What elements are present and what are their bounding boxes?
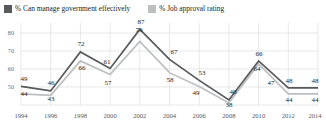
- point-label-manage-2000: 61: [100, 58, 114, 66]
- x-tick-2002: 2002: [128, 111, 152, 120]
- point-label-manage-2004: 67: [167, 48, 181, 56]
- legend-swatch-icon: [4, 5, 12, 13]
- point-label-manage-1998: 72: [74, 40, 88, 48]
- x-tick-2012: 2012: [276, 111, 300, 120]
- point-label-approval-2002: 79: [132, 26, 146, 34]
- x-tick-1994: 1994: [9, 111, 33, 120]
- point-label-manage-2014: 48: [308, 77, 322, 85]
- plot-svg: [0, 17, 321, 107]
- legend-label-manage-government: % Can manage government effectively: [15, 4, 130, 13]
- point-label-manage-1996: 46: [44, 79, 58, 87]
- point-label-approval-2012: 44: [282, 96, 296, 104]
- point-label-approval-1994: 44: [17, 90, 31, 98]
- point-label-manage-1994: 49: [17, 75, 31, 83]
- point-label-manage-2012: 48: [282, 77, 296, 85]
- x-tick-2000: 2000: [98, 111, 122, 120]
- point-label-approval-1998: 66: [75, 64, 89, 72]
- point-label-approval-1996: 43: [44, 95, 58, 103]
- y-tick-50: 50: [2, 83, 14, 90]
- x-tick-1996: 1996: [39, 111, 63, 120]
- point-label-approval-2010-dip: 47: [264, 79, 278, 87]
- x-tick-2006: 2006: [187, 111, 211, 120]
- x-tick-1998: 1998: [68, 111, 92, 120]
- x-tick-2004: 2004: [158, 111, 182, 120]
- y-tick-70: 70: [2, 47, 14, 54]
- y-tick-60: 60: [2, 65, 14, 72]
- gridlines: [21, 23, 318, 105]
- legend-item-job-approval: % Job approval rating: [148, 4, 224, 13]
- x-tick-2008: 2008: [217, 111, 241, 120]
- x-tick-2010: 2010: [247, 111, 271, 120]
- point-label-manage-2010: 66: [252, 50, 266, 58]
- y-tick-80: 80: [2, 29, 14, 36]
- legend-swatch-icon: [148, 5, 156, 13]
- point-label-approval-2006: 49: [189, 89, 203, 97]
- point-label-approval-2014: 44: [308, 96, 322, 104]
- x-tick-2014: 2014: [303, 111, 326, 120]
- legend-item-manage-government: % Can manage government effectively: [4, 4, 130, 13]
- point-label-approval-2010: 64: [250, 65, 264, 73]
- x-axis: 1994 1996 1998 2000 2002 2004 2006 2008 …: [0, 108, 321, 126]
- point-label-manage-2006: 53: [195, 69, 209, 77]
- legend-label-job-approval: % Job approval rating: [159, 4, 224, 13]
- point-label-approval-2000: 57: [101, 79, 115, 87]
- chart-legend: % Can manage government effectively % Jo…: [0, 0, 321, 17]
- point-label-manage-2008: 40: [226, 88, 240, 96]
- point-label-manage-2002: 87: [134, 18, 148, 26]
- point-label-approval-2004: 58: [163, 76, 177, 84]
- plot-area: 80 70 60 50 49 46 72 61 87 67 53 40 66 4…: [0, 17, 321, 107]
